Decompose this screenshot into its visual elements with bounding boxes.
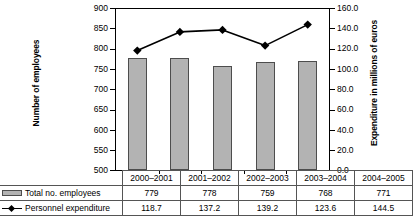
y-left-tick-550: 550 — [78, 146, 108, 155]
y-right-tick-120: 120.0 — [337, 44, 369, 53]
y-left-tick-750: 750 — [78, 65, 108, 74]
table-header-cell: 2001–2002 — [181, 171, 239, 186]
plot-box — [115, 8, 330, 171]
table-header-cell: 2000–2001 — [123, 171, 181, 186]
legend-row-expenditure: Personnel expenditure — [0, 201, 123, 216]
table-cell: 778 — [181, 186, 239, 201]
y-left-tick-600: 600 — [78, 126, 108, 135]
y-right-tick-100: 100.0 — [337, 65, 369, 74]
table-cell: 123.6 — [297, 201, 355, 216]
table-header-cell: 2003–2004 — [297, 171, 355, 186]
table-cell: 137.2 — [181, 201, 239, 216]
table-header-row: 2000–2001 2001–2002 2002–2003 2003–2004 … — [0, 171, 413, 186]
y-right-tick-20: 20.0 — [337, 146, 369, 155]
y-right-tick-160: 160.0 — [337, 4, 369, 13]
bar-swatch-icon — [2, 190, 22, 196]
table-cell: 779 — [123, 186, 181, 201]
legend-label: Total no. employees — [25, 188, 101, 198]
table-cell: 139.2 — [239, 201, 297, 216]
marker-2002–2003 — [218, 26, 226, 34]
y-left-tick-650: 650 — [78, 105, 108, 114]
tickmark-right-3 — [330, 49, 335, 50]
tickmark-right-6 — [330, 110, 335, 111]
table-cell: 771 — [355, 186, 413, 201]
legend-row-employees: Total no. employees — [0, 186, 123, 201]
table-header-cell: 2004–2005 — [355, 171, 413, 186]
table-header-cell: 2002–2003 — [239, 171, 297, 186]
tickmark-right-8 — [330, 150, 335, 151]
tickmark-right-7 — [330, 130, 335, 131]
table-row: Personnel expenditure 118.7 137.2 139.2 … — [0, 201, 413, 216]
line-series-layer — [116, 9, 329, 170]
tickmark-right-1 — [330, 8, 335, 9]
data-table: 2000–2001 2001–2002 2002–2003 2003–2004 … — [0, 170, 413, 216]
y-left-tick-800: 800 — [78, 44, 108, 53]
line-marker-icon — [2, 205, 22, 212]
table-cell: 118.7 — [123, 201, 181, 216]
y-right-tick-140: 140.0 — [337, 24, 369, 33]
marker-2001–2002 — [176, 28, 184, 36]
y-right-tick-60: 60.0 — [337, 105, 369, 114]
y-left-tick-700: 700 — [78, 85, 108, 94]
legend-header-spacer — [0, 171, 123, 186]
y-left-tick-850: 850 — [78, 24, 108, 33]
marker-2004–2005 — [304, 20, 312, 28]
tickmark-right-4 — [330, 69, 335, 70]
y-left-tick-900: 900 — [78, 4, 108, 13]
table-cell: 144.5 — [355, 201, 413, 216]
y-right-tick-80: 80.0 — [337, 85, 369, 94]
table-cell: 759 — [239, 186, 297, 201]
y-axis-left-title: Number of employees — [31, 3, 41, 163]
table-row: Total no. employees 779 778 759 768 771 — [0, 186, 413, 201]
chart-plot-region: Number of employees Expenditure in milli… — [0, 0, 384, 172]
table-cell: 768 — [297, 186, 355, 201]
tickmark-right-5 — [330, 89, 335, 90]
marker-2000–2001 — [133, 46, 141, 54]
personnel-expenditure-markers — [133, 20, 312, 54]
legend-label: Personnel expenditure — [25, 203, 110, 213]
y-axis-right-title: Expenditure in millions of euros — [369, 3, 379, 163]
marker-2003–2004 — [261, 41, 269, 49]
tickmark-right-2 — [330, 28, 335, 29]
y-right-tick-40: 40.0 — [337, 126, 369, 135]
